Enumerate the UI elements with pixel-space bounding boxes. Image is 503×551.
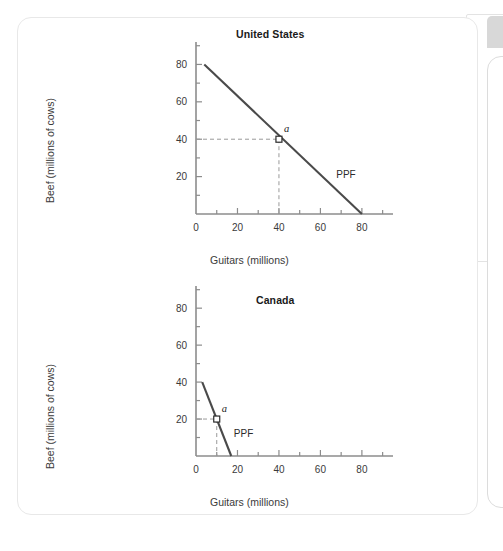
y-tick-label: 80 — [176, 59, 188, 70]
plot-area-united-states: 02040608020406080aPPF — [18, 18, 479, 250]
chart-title-united-states: United States — [236, 28, 304, 40]
figure-card: United States Beef (millions of cows) Gu… — [17, 17, 478, 515]
x-tick-label: 60 — [315, 464, 327, 475]
y-axis-title-canada: Beef (millions of cows) — [44, 364, 56, 469]
point-label-a: a — [284, 123, 289, 134]
chart-panel-united-states: United States Beef (millions of cows) Gu… — [18, 18, 479, 280]
y-tick-label: 60 — [176, 96, 188, 107]
ppf-series-label: PPF — [234, 428, 253, 439]
point-marker-a — [276, 136, 282, 142]
edge-rounded-panel — [487, 56, 503, 508]
ppf-series-label: PPF — [336, 169, 355, 180]
x-tick-label: 20 — [232, 222, 244, 233]
y-tick-label: 40 — [176, 134, 188, 145]
x-axis-title-canada: Guitars (millions) — [210, 496, 289, 508]
x-tick-label: 0 — [193, 222, 199, 233]
x-tick-label: 40 — [273, 464, 285, 475]
x-tick-label: 40 — [273, 222, 285, 233]
screenshot-root: United States Beef (millions of cows) Gu… — [0, 0, 503, 551]
point-marker-a — [214, 416, 220, 422]
x-tick-label: 80 — [356, 464, 368, 475]
y-tick-label: 20 — [176, 414, 188, 425]
y-axis-title-united-states: Beef (millions of cows) — [44, 98, 56, 203]
x-tick-label: 80 — [356, 222, 368, 233]
y-tick-label: 80 — [176, 303, 188, 314]
chart-panel-canada: Canada Beef (millions of cows) Guitars (… — [18, 284, 479, 516]
point-label-a: a — [222, 403, 227, 414]
x-tick-label: 20 — [232, 464, 244, 475]
plot-area-canada: 02040608020406080aPPF — [18, 284, 479, 492]
x-tick-label: 0 — [193, 464, 199, 475]
edge-tab-chip[interactable] — [487, 16, 503, 48]
x-axis-title-united-states: Guitars (millions) — [210, 254, 289, 266]
y-tick-label: 20 — [176, 171, 188, 182]
chart-title-canada: Canada — [256, 294, 295, 306]
y-tick-label: 40 — [176, 377, 188, 388]
y-tick-label: 60 — [176, 340, 188, 351]
x-tick-label: 60 — [315, 222, 327, 233]
